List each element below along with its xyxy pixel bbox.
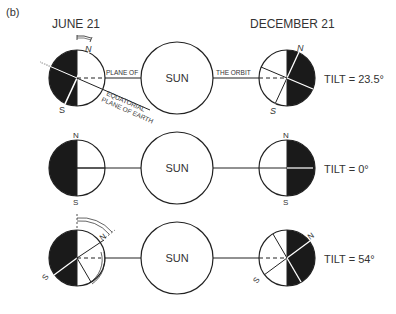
earth-december: N S — [259, 131, 315, 207]
north-label: N — [283, 131, 289, 140]
tilt-label: TILT = 23.5° — [324, 73, 384, 85]
south-label: S — [251, 276, 261, 286]
south-label: S — [40, 273, 50, 283]
south-label: S — [270, 106, 276, 116]
tilt-label: TILT = 0° — [324, 163, 369, 175]
header-december: DECEMBER 21 — [250, 17, 335, 31]
row-tilt-23-5: N S PLANE OF EQUATORIAL PLANE OF EARTH S… — [40, 35, 384, 125]
south-label: S — [73, 198, 78, 207]
row-tilt-54: N S SUN N S TILT = 54° — [40, 214, 375, 294]
plane-of-label: PLANE OF — [106, 69, 138, 76]
north-label: N — [297, 43, 304, 53]
north-label: N — [73, 131, 79, 140]
earth-june: N S — [49, 131, 105, 207]
south-label: S — [59, 105, 65, 115]
the-orbit-label: THE ORBIT — [216, 69, 251, 76]
tilt-label: TILT = 54° — [324, 253, 375, 265]
south-label: S — [283, 198, 288, 207]
earth-june: N S — [40, 214, 115, 286]
north-label: N — [85, 44, 92, 54]
earth-december: N S — [259, 43, 315, 116]
seasons-diagram: (b) JUNE 21 DECEMBER 21 N S PLANE OF EQU… — [0, 0, 396, 314]
sun-label: SUN — [165, 72, 188, 84]
panel-label: (b) — [6, 6, 19, 18]
header-june: JUNE 21 — [52, 17, 100, 31]
earth-december: N S — [251, 230, 316, 286]
sun-label: SUN — [165, 252, 188, 264]
row-tilt-0: N S SUN N S TILT = 0° — [49, 131, 369, 207]
sun-label: SUN — [165, 162, 188, 174]
